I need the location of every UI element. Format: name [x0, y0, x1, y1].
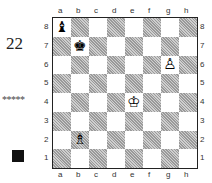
puzzle-number: 22 [6, 34, 23, 54]
square-a8[interactable]: ♝ [53, 18, 71, 37]
file-label: e [130, 6, 134, 15]
file-label: c [94, 170, 98, 179]
square-b6[interactable] [71, 56, 89, 75]
rank-label: 8 [200, 22, 204, 31]
square-h8[interactable] [179, 18, 197, 37]
file-label: h [184, 170, 188, 179]
square-a4[interactable] [53, 93, 71, 112]
square-g5[interactable] [161, 74, 179, 93]
square-d5[interactable] [107, 74, 125, 93]
square-f7[interactable] [143, 37, 161, 56]
square-b8[interactable] [71, 18, 89, 37]
square-f1[interactable] [143, 149, 161, 168]
rank-label: 3 [44, 116, 48, 125]
square-f2[interactable] [143, 131, 161, 150]
rank-label: 2 [44, 135, 48, 144]
square-a2[interactable] [53, 131, 71, 150]
square-f3[interactable] [143, 112, 161, 131]
square-g2[interactable] [161, 131, 179, 150]
rank-label: 5 [200, 78, 204, 87]
file-label: g [166, 6, 170, 15]
square-e2[interactable] [125, 131, 143, 150]
square-b3[interactable] [71, 112, 89, 131]
square-c8[interactable] [89, 18, 107, 37]
square-d4[interactable] [107, 93, 125, 112]
square-h6[interactable] [179, 56, 197, 75]
rank-label: 6 [44, 60, 48, 69]
square-b5[interactable] [71, 74, 89, 93]
square-e6[interactable] [125, 56, 143, 75]
rank-label: 6 [200, 60, 204, 69]
square-e1[interactable] [125, 149, 143, 168]
square-d7[interactable] [107, 37, 125, 56]
square-d2[interactable] [107, 131, 125, 150]
square-h1[interactable] [179, 149, 197, 168]
square-h2[interactable] [179, 131, 197, 150]
black-king-icon[interactable]: ♚ [73, 39, 86, 54]
square-e7[interactable] [125, 37, 143, 56]
white-bishop-icon[interactable]: ♗ [73, 132, 86, 147]
file-label: e [130, 170, 134, 179]
square-h5[interactable] [179, 74, 197, 93]
file-label: d [112, 170, 116, 179]
square-d6[interactable] [107, 56, 125, 75]
square-b1[interactable] [71, 149, 89, 168]
square-f8[interactable] [143, 18, 161, 37]
square-e5[interactable] [125, 74, 143, 93]
square-e3[interactable] [125, 112, 143, 131]
square-h3[interactable] [179, 112, 197, 131]
square-c6[interactable] [89, 56, 107, 75]
square-c5[interactable] [89, 74, 107, 93]
square-e8[interactable] [125, 18, 143, 37]
file-label: h [184, 6, 188, 15]
white-king-icon[interactable]: ♔ [127, 95, 140, 110]
square-a3[interactable] [53, 112, 71, 131]
side-to-move-indicator [12, 150, 24, 162]
file-label: f [148, 170, 150, 179]
black-bishop-icon[interactable]: ♝ [55, 20, 68, 35]
square-f4[interactable] [143, 93, 161, 112]
square-d1[interactable] [107, 149, 125, 168]
white-pawn-icon[interactable]: ♙ [163, 57, 176, 72]
rank-label: 5 [44, 78, 48, 87]
square-c1[interactable] [89, 149, 107, 168]
square-a7[interactable] [53, 37, 71, 56]
file-label: a [58, 170, 62, 179]
square-f6[interactable] [143, 56, 161, 75]
file-label: f [148, 6, 150, 15]
square-g7[interactable] [161, 37, 179, 56]
file-label: c [94, 6, 98, 15]
square-a6[interactable] [53, 56, 71, 75]
rank-label: 1 [44, 153, 48, 162]
rank-label: 8 [44, 22, 48, 31]
square-c7[interactable] [89, 37, 107, 56]
square-e4[interactable]: ♔ [125, 93, 143, 112]
square-d8[interactable] [107, 18, 125, 37]
rank-label: 7 [44, 41, 48, 50]
square-c3[interactable] [89, 112, 107, 131]
square-h4[interactable] [179, 93, 197, 112]
square-b7[interactable]: ♚ [71, 37, 89, 56]
square-a1[interactable] [53, 149, 71, 168]
square-b2[interactable]: ♗ [71, 131, 89, 150]
square-c2[interactable] [89, 131, 107, 150]
rank-label: 2 [200, 135, 204, 144]
square-d3[interactable] [107, 112, 125, 131]
square-g6[interactable]: ♙ [161, 56, 179, 75]
square-g8[interactable] [161, 18, 179, 37]
square-c4[interactable] [89, 93, 107, 112]
rank-label: 7 [200, 41, 204, 50]
difficulty-rating: ***** [2, 94, 25, 105]
square-g4[interactable] [161, 93, 179, 112]
file-label: b [76, 170, 80, 179]
rank-label: 4 [44, 97, 48, 106]
square-g3[interactable] [161, 112, 179, 131]
square-g1[interactable] [161, 149, 179, 168]
rank-label: 1 [200, 153, 204, 162]
square-f5[interactable] [143, 74, 161, 93]
chess-board[interactable]: ♝♚♙♔♗ [52, 17, 198, 169]
square-a5[interactable] [53, 74, 71, 93]
square-b4[interactable] [71, 93, 89, 112]
file-label: d [112, 6, 116, 15]
square-h7[interactable] [179, 37, 197, 56]
